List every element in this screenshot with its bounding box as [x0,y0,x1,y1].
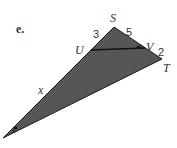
length-label-x: x [37,83,44,97]
length-label-vt: 2 [158,46,164,58]
triangle-figure: e. S U V T 3 5 2 x [0,0,177,148]
vertex-label-u: U [75,43,85,57]
angle-dot-v-icon [137,46,139,48]
part-label: e. [16,22,24,36]
triangle-diagram: e. S U V T 3 5 2 x [0,0,177,148]
angle-dot-bottom-icon [15,127,17,129]
vertex-label-v: V [146,40,155,54]
length-label-su: 3 [93,28,99,40]
length-label-sv: 5 [126,26,132,38]
vertex-label-t: T [163,61,171,75]
vertex-label-s: S [110,11,116,25]
